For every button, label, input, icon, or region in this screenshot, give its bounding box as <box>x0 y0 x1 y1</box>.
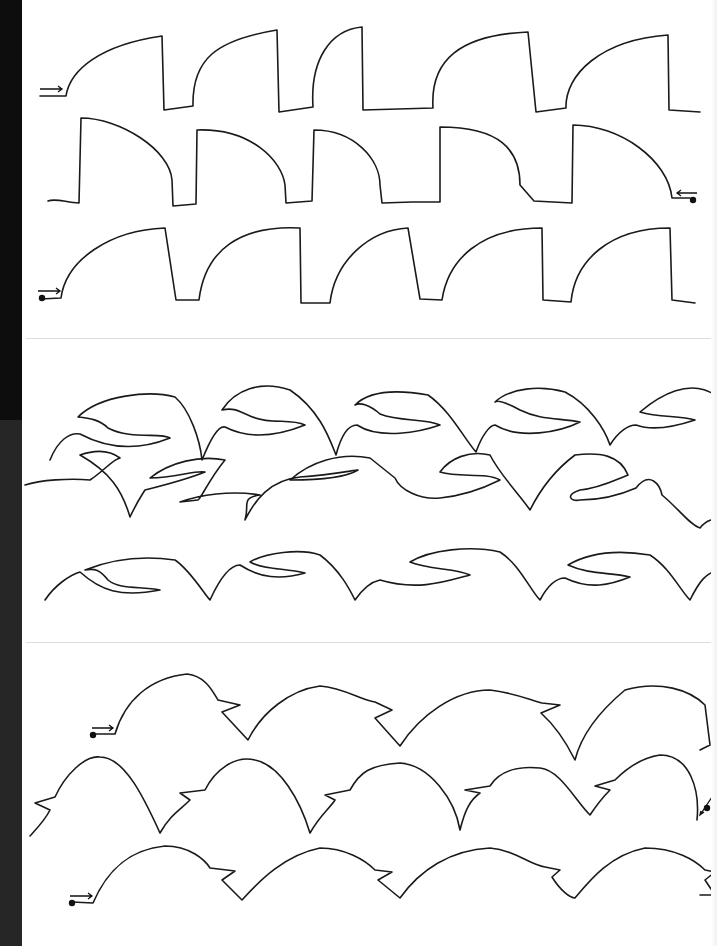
pattern-panel-leaves <box>22 339 717 641</box>
page-edge-texture <box>0 420 22 946</box>
pattern-page <box>22 0 717 946</box>
start-arrow-icon <box>38 288 60 294</box>
leaf-row-3 <box>45 549 717 600</box>
fin-row-1 <box>40 27 700 112</box>
fin-pattern-drawing <box>22 0 717 338</box>
page-right-edge <box>711 0 717 946</box>
start-dot-icon <box>90 732 96 738</box>
start-arrow-icon <box>92 725 113 731</box>
end-dot-icon <box>69 900 75 906</box>
fin-row-3 <box>40 228 695 303</box>
fin-row-2 <box>48 118 690 206</box>
arch-row-3 <box>72 846 715 903</box>
turn-arrow-icon <box>677 190 697 196</box>
arch-pattern-drawing <box>22 643 717 946</box>
leaf-row-2 <box>25 451 717 528</box>
turn-dot-icon <box>690 197 696 203</box>
start-arrow-icon <box>40 86 62 92</box>
arch-row-1 <box>95 674 710 760</box>
turn-dot-icon <box>704 805 710 811</box>
leaf-pattern-drawing <box>22 339 717 641</box>
page-edge-strip <box>0 0 22 946</box>
pattern-panel-arches <box>22 643 717 946</box>
start-dot-icon <box>39 295 45 301</box>
pattern-panel-fins <box>22 0 717 338</box>
arch-row-2 <box>30 755 698 836</box>
leaf-row-1 <box>50 386 715 460</box>
end-arrow-icon <box>70 893 92 899</box>
